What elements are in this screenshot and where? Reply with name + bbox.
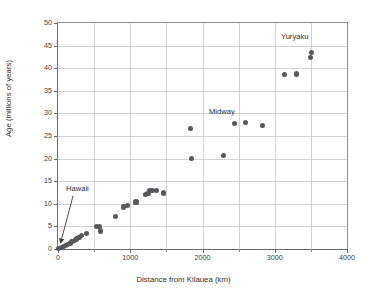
y-axis-tick-label: 30 xyxy=(44,110,52,117)
x-axis-tick-label: 1000 xyxy=(122,254,138,261)
data-point xyxy=(309,50,314,55)
y-axis-tick xyxy=(54,159,58,160)
data-point xyxy=(133,199,138,204)
y-axis-tick xyxy=(54,181,58,182)
x-axis-title: Distance from Kilauea (km) xyxy=(0,275,367,284)
data-point xyxy=(260,123,265,128)
gridline-vertical xyxy=(203,23,204,249)
x-axis-minor-tick xyxy=(94,249,95,252)
y-axis-tick-label: 40 xyxy=(44,65,52,72)
x-axis-tick-label: 2000 xyxy=(195,254,211,261)
y-axis-tick xyxy=(54,226,58,227)
data-point xyxy=(243,120,248,125)
y-axis-tick-label: 10 xyxy=(44,200,52,207)
gridline-vertical xyxy=(239,23,240,249)
x-axis-minor-tick xyxy=(311,249,312,252)
gridline-vertical xyxy=(94,23,95,249)
plot-area: 0510152025303540455001000200030004000 xyxy=(57,22,348,250)
y-axis-tick-label: 45 xyxy=(44,42,52,49)
data-point xyxy=(294,71,299,76)
gridline-vertical xyxy=(275,23,276,249)
x-axis-minor-tick xyxy=(239,249,240,252)
data-point xyxy=(232,121,237,126)
data-point xyxy=(308,55,313,60)
data-point xyxy=(188,126,193,131)
y-axis-tick xyxy=(54,113,58,114)
gridline-vertical xyxy=(166,23,167,249)
y-axis-tick xyxy=(54,136,58,137)
y-axis-tick-label: 50 xyxy=(44,19,52,26)
annotation-hawaii: Hawaii xyxy=(66,185,89,193)
data-point xyxy=(161,190,166,195)
data-point xyxy=(84,231,89,236)
y-axis-tick-label: 25 xyxy=(44,132,52,139)
y-axis-tick xyxy=(54,68,58,69)
y-axis-tick-label: 15 xyxy=(44,178,52,185)
x-axis-minor-tick xyxy=(166,249,167,252)
gridline-vertical xyxy=(130,23,131,249)
y-axis-tick-label: 5 xyxy=(48,223,52,230)
x-axis-tick-label: 4000 xyxy=(339,254,355,261)
data-point xyxy=(189,156,194,161)
y-axis-tick-label: 0 xyxy=(48,245,52,252)
annotation-midway: Midway xyxy=(209,108,235,116)
x-axis-tick-label: 0 xyxy=(56,254,60,261)
data-point xyxy=(113,214,118,219)
data-point xyxy=(282,72,287,77)
y-axis-tick xyxy=(54,23,58,24)
x-axis-tick-label: 3000 xyxy=(267,254,283,261)
data-point xyxy=(154,188,159,193)
y-axis-tick xyxy=(54,46,58,47)
y-axis-tick-label: 35 xyxy=(44,87,52,94)
y-axis-tick xyxy=(54,91,58,92)
y-axis-tick xyxy=(54,204,58,205)
y-axis-title: Age (millions of years) xyxy=(4,19,13,179)
data-point xyxy=(98,228,103,233)
scatter-chart: 0510152025303540455001000200030004000 Ha… xyxy=(0,0,367,298)
data-point xyxy=(125,203,130,208)
annotation-yuryaku: Yuryaku xyxy=(281,33,308,41)
y-axis-tick-label: 20 xyxy=(44,155,52,162)
